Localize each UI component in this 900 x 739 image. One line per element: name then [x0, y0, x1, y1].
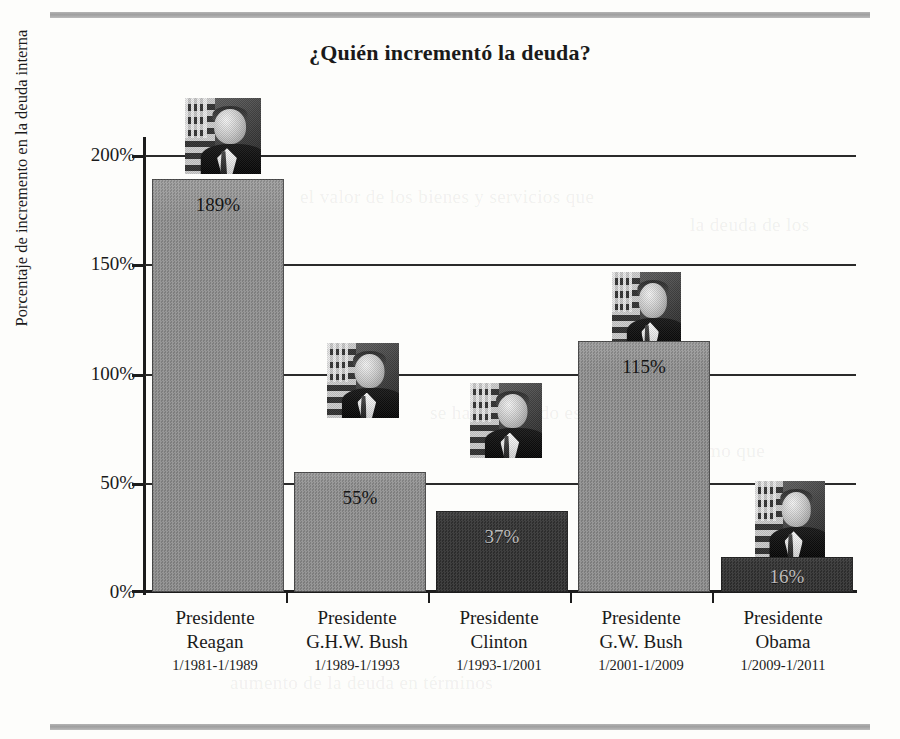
x-label-clinton-line2: Clinton	[428, 630, 570, 654]
bar-value-gw-bush: 115%	[579, 356, 709, 378]
y-tick-0	[132, 590, 145, 593]
x-label-gw-bush: Presidente G.W. Bush 1/2001-1/2009	[570, 606, 712, 676]
clinton-portrait	[470, 383, 542, 458]
y-tick-label-50: 50%	[47, 472, 135, 494]
top-horizontal-rule	[50, 12, 870, 18]
x-label-obama: Presidente Obama 1/2009-1/2011	[712, 606, 854, 676]
bar-value-obama: 16%	[722, 566, 852, 588]
x-label-gw-bush-range: 1/2001-1/2009	[570, 654, 712, 676]
bar-value-clinton: 37%	[437, 526, 567, 548]
x-tick-2	[428, 592, 430, 603]
x-label-clinton-range: 1/1993-1/2001	[428, 654, 570, 676]
x-tick-4	[712, 592, 714, 603]
x-label-ghw-bush-line2: G.H.W. Bush	[286, 630, 428, 654]
x-label-reagan-line2: Reagan	[144, 630, 286, 654]
x-label-clinton: Presidente Clinton 1/1993-1/2001	[428, 606, 570, 676]
y-axis-title: Porcentaje de incremento en la deuda int…	[12, 0, 32, 388]
bar-reagan[interactable]: 189%	[152, 179, 284, 592]
ghw-bush-portrait	[327, 343, 399, 418]
gw-bush-portrait	[612, 272, 681, 348]
reagan-portrait	[185, 98, 261, 174]
x-label-reagan: Presidente Reagan 1/1981-1/1989	[144, 606, 286, 676]
x-tick-3	[570, 592, 572, 603]
y-tick-label-150: 150%	[47, 253, 135, 275]
y-tick-200	[132, 155, 145, 158]
y-tick-50	[132, 483, 145, 486]
x-label-gw-bush-line1: Presidente	[570, 606, 712, 630]
y-tick-label-0: 0%	[47, 581, 135, 603]
x-label-reagan-range: 1/1981-1/1989	[144, 654, 286, 676]
plot-area: 189% 55% 37% 115% 16%	[143, 155, 856, 592]
x-label-ghw-bush-line1: Presidente	[286, 606, 428, 630]
bar-clinton[interactable]: 37%	[436, 511, 568, 592]
y-tick-label-200: 200%	[47, 144, 135, 166]
x-label-gw-bush-line2: G.W. Bush	[570, 630, 712, 654]
x-tick-1	[286, 592, 288, 603]
chart-title: ¿Quién incrementó la deuda?	[0, 40, 900, 66]
y-tick-100	[132, 374, 145, 377]
y-tick-label-100: 100%	[47, 363, 135, 385]
x-label-reagan-line1: Presidente	[144, 606, 286, 630]
bar-value-ghw-bush: 55%	[295, 487, 425, 509]
y-tick-150	[132, 264, 145, 267]
bar-gw-bush[interactable]: 115%	[578, 341, 710, 592]
bottom-horizontal-rule	[50, 724, 870, 730]
x-label-obama-line2: Obama	[712, 630, 854, 654]
x-label-obama-range: 1/2009-1/2011	[712, 654, 854, 676]
x-label-ghw-bush: Presidente G.H.W. Bush 1/1989-1/1993	[286, 606, 428, 676]
obama-portrait	[755, 481, 825, 557]
bar-ghw-bush[interactable]: 55%	[294, 472, 426, 592]
x-label-ghw-bush-range: 1/1989-1/1993	[286, 654, 428, 676]
x-label-clinton-line1: Presidente	[428, 606, 570, 630]
bar-value-reagan: 189%	[153, 194, 283, 216]
y-axis-tick-labels: 200% 150% 100% 50% 0%	[43, 155, 135, 592]
bar-obama[interactable]: 16%	[721, 557, 853, 592]
x-label-obama-line1: Presidente	[712, 606, 854, 630]
